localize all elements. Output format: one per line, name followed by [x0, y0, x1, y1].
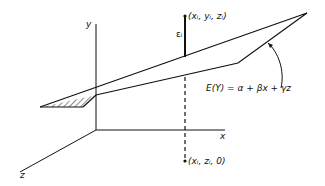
projection-point	[183, 159, 186, 162]
plane-equation: E(Y) = α + βx + γz	[206, 83, 291, 93]
z-axis	[20, 130, 96, 172]
error-label: εᵢ	[176, 29, 183, 39]
observed-point	[183, 14, 186, 17]
x-axis-label: x	[219, 131, 226, 141]
regression-plane-diagram: y x z (xᵢ, yᵢ, zᵢ) εᵢ (xᵢ, zᵢ, 0) E(Y) =…	[0, 0, 325, 186]
z-axis-label: z	[19, 170, 25, 180]
observed-point-label: (xᵢ, yᵢ, zᵢ)	[188, 11, 227, 21]
y-axis-label: y	[85, 19, 92, 29]
equation-arrow	[268, 43, 282, 88]
projection-point-label: (xᵢ, zᵢ, 0)	[188, 156, 225, 166]
